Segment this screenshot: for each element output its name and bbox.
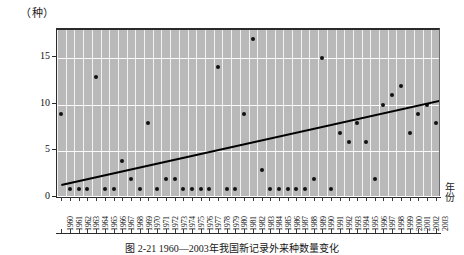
x-tick-mark: [105, 197, 106, 201]
vertical-gridline: [205, 30, 206, 196]
vertical-gridline: [362, 30, 363, 196]
y-tick-label: 5: [28, 143, 50, 154]
x-tick-mark: [148, 197, 149, 201]
data-point: [242, 112, 246, 116]
data-point: [129, 177, 133, 181]
x-tick-mark: [410, 197, 411, 201]
data-point: [155, 187, 159, 191]
x-tick-mark: [288, 197, 289, 201]
x-tick-mark: [70, 197, 71, 201]
data-point: [181, 187, 185, 191]
vertical-gridline: [353, 30, 354, 196]
data-point: [103, 187, 107, 191]
data-point: [207, 187, 211, 191]
x-tick-mark: [209, 197, 210, 201]
vertical-gridline: [344, 30, 345, 196]
vertical-gridline: [431, 30, 432, 196]
y-tick-mark: [52, 56, 56, 57]
data-point: [146, 121, 150, 125]
x-tick-label: 2001: [423, 216, 432, 231]
data-point: [425, 103, 429, 107]
data-point: [355, 121, 359, 125]
vertical-gridline: [118, 30, 119, 196]
vertical-gridline: [57, 30, 58, 196]
x-tick-mark: [436, 197, 437, 201]
data-point: [260, 168, 264, 172]
x-tick-mark: [166, 197, 167, 201]
x-tick-mark: [262, 197, 263, 201]
x-tick-label: 1994: [362, 216, 371, 231]
y-tick-label: 15: [28, 50, 50, 61]
x-tick-mark: [96, 197, 97, 201]
data-point: [77, 187, 81, 191]
vertical-gridline: [318, 30, 319, 196]
x-tick-mark: [131, 197, 132, 201]
data-point: [408, 131, 412, 135]
x-tick-mark: [175, 197, 176, 201]
horizontal-gridline: [57, 151, 439, 152]
x-tick-label: 1995: [371, 216, 380, 231]
data-point: [85, 187, 89, 191]
vertical-gridline: [283, 30, 284, 196]
x-tick-mark: [392, 197, 393, 201]
x-tick-label: 2003: [441, 216, 450, 231]
x-tick-mark: [305, 197, 306, 201]
x-tick-mark-lower: [61, 229, 62, 233]
vertical-gridline: [405, 30, 406, 196]
x-tick-label: 1960: [66, 216, 75, 231]
data-point: [399, 84, 403, 88]
x-tick-label: 1968: [136, 216, 145, 231]
x-tick-mark: [201, 197, 202, 201]
x-tick-mark: [357, 197, 358, 201]
x-tick-label: 1971: [162, 216, 171, 231]
data-point: [390, 93, 394, 97]
x-tick-label: 1998: [397, 216, 406, 231]
x-tick-mark: [227, 197, 228, 201]
data-point: [329, 187, 333, 191]
vertical-gridline: [309, 30, 310, 196]
figure-caption: 图 2-21 1960—2003年我国新记录外来种数量变化: [0, 240, 464, 255]
vertical-gridline: [414, 30, 415, 196]
x-tick-label: 1999: [406, 216, 415, 231]
vertical-gridline: [423, 30, 424, 196]
x-tick-mark: [296, 197, 297, 201]
data-point: [303, 187, 307, 191]
y-tick-mark: [52, 196, 56, 197]
x-tick-label: 1978: [223, 216, 232, 231]
vertical-gridline: [379, 30, 380, 196]
x-tick-mark: [157, 197, 158, 201]
y-axis-unit-label: （种）: [20, 4, 55, 20]
data-point: [199, 187, 203, 191]
x-tick-mark: [383, 197, 384, 201]
vertical-gridline: [370, 30, 371, 196]
vertical-gridline: [231, 30, 232, 196]
vertical-gridline: [292, 30, 293, 196]
y-tick-label: 0: [28, 190, 50, 201]
x-tick-label: 1977: [214, 216, 223, 231]
x-tick-mark: [218, 197, 219, 201]
x-tick-mark: [87, 197, 88, 201]
x-tick-label: 2002: [432, 216, 441, 231]
vertical-gridline: [161, 30, 162, 196]
x-tick-mark: [244, 197, 245, 201]
data-point: [286, 187, 290, 191]
data-point: [112, 187, 116, 191]
data-point: [416, 112, 420, 116]
x-tick-mark: [270, 197, 271, 201]
vertical-gridline: [179, 30, 180, 196]
x-tick-label: 1988: [310, 216, 319, 231]
vertical-gridline: [327, 30, 328, 196]
x-tick-label: 1981: [249, 216, 258, 231]
vertical-gridline: [74, 30, 75, 196]
data-point: [94, 75, 98, 79]
x-tick-mark: [314, 197, 315, 201]
data-point: [364, 140, 368, 144]
x-tick-label: 1965: [110, 216, 119, 231]
vertical-gridline: [66, 30, 67, 196]
vertical-gridline: [214, 30, 215, 196]
x-tick-label: 1964: [101, 216, 110, 231]
vertical-gridline: [275, 30, 276, 196]
vertical-gridline: [396, 30, 397, 196]
vertical-gridline: [249, 30, 250, 196]
